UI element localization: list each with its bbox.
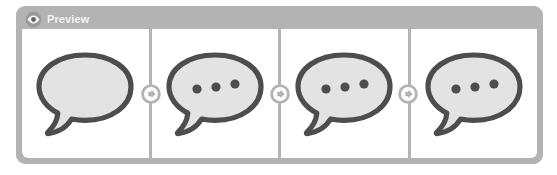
eye-icon [25,11,42,28]
typing-dot [489,79,498,88]
preview-frames-strip [22,29,537,158]
typing-dot [322,84,331,93]
preview-header: Preview [19,9,540,29]
preview-frame-2[interactable] [152,29,279,158]
speech-bubble-typing-icon [422,48,526,140]
preview-frame-4[interactable] [411,29,538,158]
arrow-right-circle-icon [140,83,161,104]
preview-frame-3[interactable] [281,29,408,158]
typing-dot [211,82,220,91]
preview-title: Preview [47,14,89,25]
typing-dot [230,79,239,88]
frame-connector-1[interactable] [140,83,161,104]
speech-bubble-typing-icon [163,48,267,140]
typing-dot [192,84,201,93]
typing-dot [341,82,350,91]
typing-dot [470,82,479,91]
frame-connector-3[interactable] [398,83,419,104]
speech-bubble-typing-icon [292,48,396,140]
frame-connector-2[interactable] [269,83,290,104]
speech-bubble-icon [33,48,137,140]
typing-dot [360,79,369,88]
arrow-right-circle-icon [398,83,419,104]
preview-frame-1[interactable] [22,29,149,158]
preview-widget: Preview [16,6,543,164]
arrow-right-circle-icon [269,83,290,104]
typing-dot [451,84,460,93]
